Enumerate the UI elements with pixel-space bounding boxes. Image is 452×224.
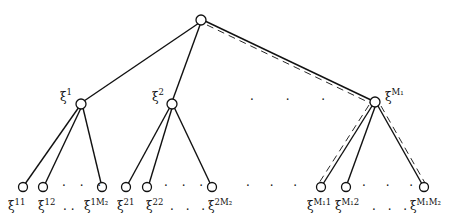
groupM-edges [319, 105, 425, 184]
label-xi-21: ξ21 [117, 197, 134, 213]
edge-root-nM1 [205, 21, 371, 100]
label-xi-2: ξ2 [152, 87, 164, 104]
level1-ellipsis: · · · [250, 93, 339, 107]
root-node [196, 15, 206, 25]
edge-hl [323, 106, 372, 184]
groupM-ellipsis-top: · · · [362, 179, 421, 193]
node-xi-1 [76, 99, 86, 109]
label-xi-11: ξ11 [8, 197, 25, 213]
label-xi-2M2: ξ2M₂ [208, 197, 232, 213]
root-edges [84, 21, 371, 103]
edge [347, 107, 375, 184]
node-xi-M1 [370, 97, 380, 107]
group1-ellipsis-bottom: ·· [63, 203, 79, 217]
group1-edges [25, 107, 101, 184]
leaf-node [143, 183, 152, 192]
edge [149, 108, 172, 184]
edge-root-nM1-dashed [207, 25, 370, 103]
groupM-ellipsis-bottom: · · · [372, 203, 411, 217]
group1-ellipsis-top: · · · [62, 179, 106, 193]
group2-ellipsis-top: · · · [164, 179, 208, 193]
edge-hl-dashed [381, 106, 425, 183]
edge-root-n1 [84, 23, 199, 101]
leaf-node [39, 183, 48, 192]
between-groups-ellipsis: · · · [246, 179, 305, 193]
edge [83, 108, 101, 183]
label-xi-12: ξ12 [38, 197, 55, 213]
label-xi-1: ξ1 [60, 87, 72, 104]
node-xi-2 [167, 99, 177, 109]
group2-edges [128, 107, 210, 184]
edge [174, 107, 210, 183]
group2-ellipsis-bottom: · · · [170, 203, 209, 217]
label-xi-M1-2: ξM₁2 [335, 197, 359, 213]
edge [45, 108, 81, 184]
edge-hl [378, 106, 422, 184]
edge [128, 107, 170, 184]
label-xi-M1-1: ξM₁1 [307, 197, 331, 213]
label-xi-M1: ξM₁ [385, 87, 404, 104]
leaf-node [317, 183, 326, 192]
edge [25, 107, 79, 184]
label-xi-22: ξ22 [146, 197, 163, 213]
leaf-node [122, 183, 131, 192]
leaf-node [19, 183, 28, 192]
leaf-node [342, 183, 351, 192]
label-xi-1M2: ξ1M₂ [84, 197, 108, 213]
scenario-tree-diagram: ξ1 ξ2 ξM₁ · · · ξ11 ξ12 ξ1M₂ ξ21 ξ22 ξ2M… [0, 0, 452, 224]
label-xi-M1-M2: ξM₁M₂ [410, 197, 441, 213]
edge-root-n2 [173, 25, 200, 99]
leaf-node [208, 183, 217, 192]
